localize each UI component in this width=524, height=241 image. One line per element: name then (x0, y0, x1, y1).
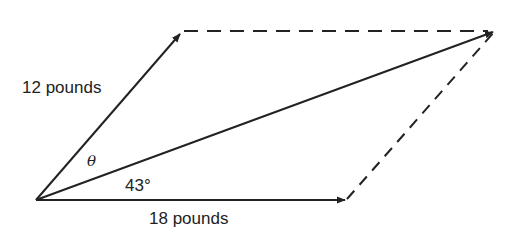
label-18-pounds: 18 pounds (149, 209, 228, 228)
vector-12-pounds (36, 34, 180, 200)
label-theta: θ (87, 152, 96, 170)
resultant-vector (36, 32, 493, 200)
dashed-right-side (347, 31, 495, 199)
vector-parallelogram-diagram: 12 pounds 18 pounds θ 43° (0, 0, 524, 241)
label-43-degrees: 43° (125, 176, 151, 195)
label-12-pounds: 12 pounds (22, 78, 101, 97)
